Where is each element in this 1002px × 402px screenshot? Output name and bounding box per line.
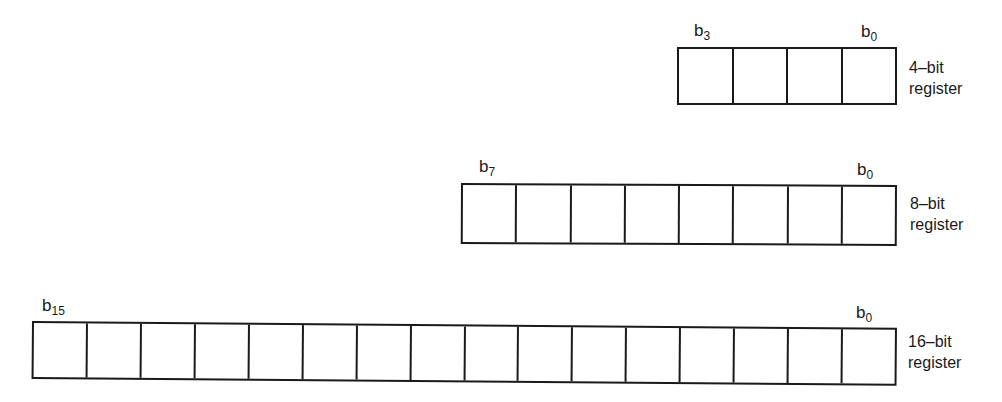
register-name-line1: 4–bit <box>909 57 962 78</box>
bit-cell-b6 <box>515 185 569 242</box>
bit-cell-b13 <box>139 324 193 378</box>
bit-cell-b1 <box>786 49 841 103</box>
register-name-line2: register <box>908 352 961 373</box>
bit-cell-b3 <box>679 49 732 103</box>
bit-cell-b7 <box>463 326 517 380</box>
bit-cell-b0 <box>841 329 895 383</box>
bit-cell-b11 <box>247 325 301 379</box>
bit-cell-b3 <box>678 186 732 243</box>
bit-cell-b6 <box>517 327 571 381</box>
register-4bit-name: 4–bit register <box>909 57 962 99</box>
lsb-label-b0: b0 <box>861 23 877 43</box>
bit-cell-b14 <box>85 323 139 377</box>
bit-cell-b2 <box>732 49 787 103</box>
bit-cell-b7 <box>463 185 515 242</box>
register-8bit-box <box>461 183 897 246</box>
register-16bit-box <box>32 321 897 386</box>
lsb-label-sub: 0 <box>870 30 877 44</box>
bit-cell-b8 <box>409 326 463 380</box>
bit-cell-b0 <box>840 187 894 244</box>
register-name-line1: 16–bit <box>908 331 961 352</box>
register-8bit-name: 8–bit register <box>910 193 963 235</box>
lsb-label-b0: b0 <box>857 161 873 181</box>
register-16bit-name: 16–bit register <box>908 331 961 373</box>
bit-cell-b4 <box>623 186 677 243</box>
bit-cell-b2 <box>732 186 786 243</box>
register-name-line1: 8–bit <box>910 193 963 214</box>
register-name-line2: register <box>909 78 962 99</box>
bit-cell-b4 <box>625 328 679 382</box>
register-4bit-box <box>677 47 897 105</box>
msb-label-sub: 7 <box>488 165 495 179</box>
bit-cell-b2 <box>733 329 787 383</box>
msb-label-b3: b3 <box>694 22 710 42</box>
msb-label-sub: 3 <box>703 29 710 43</box>
register-name-line2: register <box>910 214 963 235</box>
msb-label-b7: b7 <box>479 158 495 178</box>
msb-label-b15: b15 <box>42 297 65 317</box>
bit-cell-b1 <box>786 186 840 243</box>
bit-cell-b5 <box>569 185 623 242</box>
bit-cell-b15 <box>34 323 86 377</box>
bit-cell-b9 <box>355 326 409 380</box>
bit-cell-b5 <box>571 327 625 381</box>
msb-label-sub: 15 <box>51 304 64 318</box>
bit-cell-b0 <box>841 49 896 103</box>
bit-cell-b10 <box>301 325 355 379</box>
bit-cell-b12 <box>193 324 247 378</box>
lsb-label-b0: b0 <box>856 304 872 324</box>
bit-cell-b3 <box>679 328 733 382</box>
lsb-label-sub: 0 <box>866 168 873 182</box>
bit-cell-b1 <box>787 329 841 383</box>
lsb-label-sub: 0 <box>865 311 872 325</box>
